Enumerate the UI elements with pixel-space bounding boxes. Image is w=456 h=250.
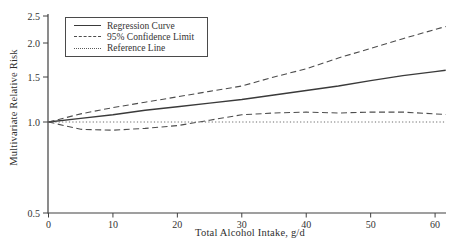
- y-tick-label: 1.0: [28, 117, 41, 128]
- legend-label: Reference Line: [107, 43, 165, 53]
- legend-label: Regression Curve: [107, 21, 175, 31]
- y-tick-label: 2.5: [28, 11, 41, 22]
- figure-container: 2.52.01.51.00.50102030405060 Total Alcoh…: [0, 0, 456, 250]
- y-tick-label: 1.5: [28, 72, 41, 83]
- legend-label: 95% Confidence Limit: [107, 32, 194, 42]
- legend-item-regression-curve: Regression Curve: [74, 21, 203, 31]
- dashed-line-sample-icon: [74, 36, 101, 37]
- x-axis-title: Total Alcohol Intake, g/d: [110, 227, 390, 238]
- y-tick-label: 2.0: [28, 38, 41, 49]
- dotted-line-sample-icon: [74, 48, 101, 49]
- y-tick-label: 0.5: [28, 208, 41, 219]
- solid-line-sample-icon: [74, 25, 101, 26]
- x-tick-label: 0: [46, 219, 51, 230]
- legend-item-reference-line: Reference Line: [74, 43, 203, 53]
- legend-box: Regression Curve 95% Confidence Limit Re…: [65, 17, 208, 57]
- legend-item-confidence-limit: 95% Confidence Limit: [74, 32, 203, 42]
- x-tick-label: 60: [430, 219, 440, 230]
- y-axis-title: Multivariate Relative Risk: [8, 33, 19, 183]
